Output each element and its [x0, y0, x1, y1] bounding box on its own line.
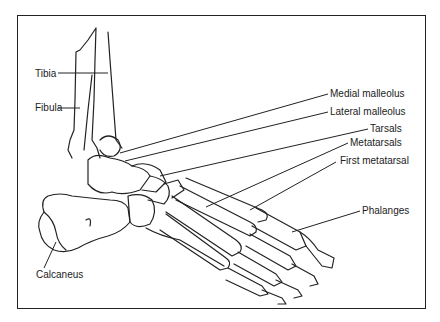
- phalanges-bones: [226, 208, 334, 304]
- label-metatarsals: Metatarsals: [350, 138, 402, 148]
- label-calcaneus: Calcaneus: [36, 270, 83, 280]
- label-fibula: Fibula: [35, 103, 62, 113]
- leg-bones: [68, 28, 122, 158]
- label-tarsals: Tarsals: [370, 124, 402, 134]
- label-first-metatarsal: First metatarsal: [340, 156, 409, 166]
- metatarsal-bones: [146, 178, 267, 270]
- label-phalanges: Phalanges: [362, 206, 409, 216]
- label-lateral-malleolus: Lateral malleolus: [330, 107, 406, 117]
- tarsal-bones: [39, 155, 184, 251]
- label-medial-malleolus: Medial malleolus: [330, 89, 404, 99]
- label-tibia: Tibia: [35, 69, 56, 79]
- foot-anatomy-diagram: Tibia Fibula Medial malleolus Lateral ma…: [0, 0, 440, 322]
